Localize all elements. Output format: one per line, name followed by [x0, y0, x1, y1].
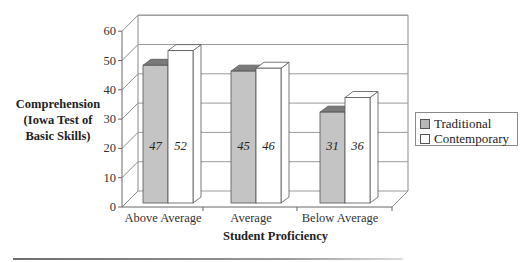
- bar-value-label: 47: [149, 139, 162, 153]
- y-tick-label: 40: [104, 83, 117, 97]
- bar-front-face: [320, 112, 345, 203]
- gridline-side: [122, 191, 138, 207]
- gridline-side: [122, 74, 138, 90]
- legend: Traditional Contemporary: [415, 112, 518, 146]
- legend-item-traditional: Traditional: [420, 116, 517, 131]
- legend-label: Contemporary: [434, 131, 509, 146]
- y-tick-label: 50: [104, 54, 117, 68]
- bar-value-label: 36: [350, 139, 364, 153]
- floor-right-edge: [392, 191, 408, 207]
- legend-label: Traditional: [434, 116, 491, 131]
- x-category-label: Above Average: [124, 211, 202, 225]
- legend-swatch-contemporary: [420, 134, 430, 144]
- gridline-side: [122, 103, 138, 119]
- gridline-side: [122, 132, 138, 148]
- bar-value-label: 46: [262, 139, 275, 153]
- y-axis-label-line: Basic Skills): [4, 128, 112, 144]
- x-category-label: Average: [230, 211, 272, 225]
- x-axis-label: Student Proficiency: [0, 229, 521, 244]
- legend-swatch-traditional: [420, 119, 430, 129]
- gridline-side: [122, 45, 138, 61]
- bar-front-face: [143, 65, 168, 203]
- bar-side-face: [370, 92, 378, 203]
- y-axis-label-line: (Iowa Test of: [4, 112, 112, 128]
- bar-front-face: [256, 68, 281, 203]
- bar-value-label: 52: [174, 139, 187, 153]
- x-category-label: Below Average: [302, 211, 379, 225]
- y-axis-label: Comprehension (Iowa Test of Basic Skills…: [4, 96, 112, 144]
- y-tick-label: 60: [104, 24, 117, 38]
- bar-value-label: 45: [237, 139, 250, 153]
- gridline-side: [122, 15, 138, 31]
- y-tick-label: 10: [104, 171, 117, 185]
- bar-side-face: [193, 45, 201, 203]
- gridline-side: [122, 162, 138, 178]
- bar-side-face: [281, 62, 289, 203]
- bar-front-face: [168, 51, 193, 203]
- y-axis-label-line: Comprehension: [4, 96, 112, 112]
- y-tick-label: 0: [110, 200, 116, 214]
- bar-value-label: 31: [325, 139, 339, 153]
- bottom-rule-divider: [13, 258, 403, 260]
- bar-front-face: [231, 71, 256, 203]
- legend-item-contemporary: Contemporary: [420, 131, 517, 146]
